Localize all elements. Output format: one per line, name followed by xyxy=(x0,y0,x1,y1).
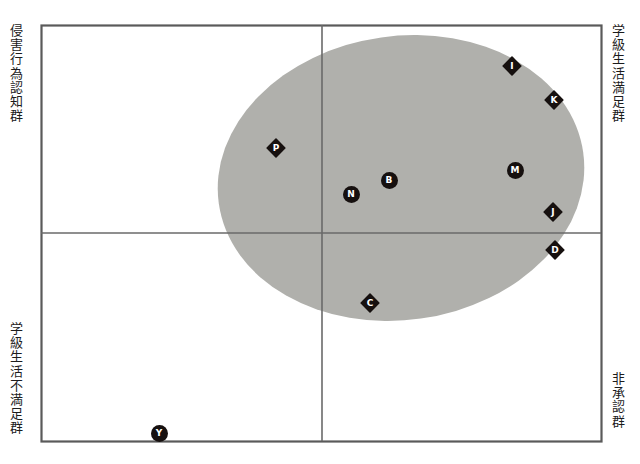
plot-area xyxy=(0,0,640,464)
data-point-label: Y xyxy=(156,429,163,438)
quadrant-label-top-right: 学級生活満足群 xyxy=(610,24,624,123)
data-point-n[interactable]: N xyxy=(342,185,360,203)
cluster-ellipse-shape xyxy=(199,12,603,344)
data-point-m[interactable]: M xyxy=(506,161,524,179)
cluster-ellipse xyxy=(199,12,603,344)
data-point-y[interactable]: Y xyxy=(150,424,168,442)
data-point-p[interactable]: P xyxy=(267,139,285,157)
data-point-label: D xyxy=(551,246,558,255)
data-point-label: I xyxy=(510,62,513,71)
chart-canvas: 侵害行為認知群 学級生活不満足群 学級生活満足群 非承認群 IKPMBNJDCY xyxy=(0,0,640,464)
data-point-b[interactable]: B xyxy=(380,171,398,189)
quadrant-label-bottom-right: 非承認群 xyxy=(610,372,624,429)
data-point-c[interactable]: C xyxy=(361,294,379,312)
quadrant-label-bottom-left: 学級生活不満足群 xyxy=(8,322,22,436)
data-point-label: K xyxy=(551,96,558,105)
data-point-label: C xyxy=(367,299,374,308)
data-point-k[interactable]: K xyxy=(545,91,563,109)
data-point-i[interactable]: I xyxy=(503,57,521,75)
data-point-label: M xyxy=(511,166,520,175)
data-point-label: N xyxy=(347,190,355,199)
quadrant-label-top-left: 侵害行為認知群 xyxy=(8,24,22,123)
data-point-j[interactable]: J xyxy=(544,203,562,221)
data-point-label: P xyxy=(273,144,280,153)
data-point-label: J xyxy=(551,208,554,217)
data-point-d[interactable]: D xyxy=(546,241,564,259)
data-point-label: B xyxy=(386,176,393,185)
